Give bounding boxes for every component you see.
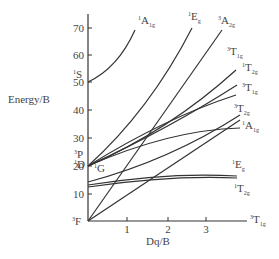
curve-1Eg-upper: [88, 28, 192, 166]
state-1T2g-lower: 1T2g: [234, 182, 250, 196]
tanabe-sugano-diagram: 10 20 30 40 50 60 70 1 2 3 Energy/B Dq/B: [0, 0, 279, 259]
y-tick-60: 60: [73, 49, 85, 61]
x-tick-1: 1: [124, 223, 130, 235]
state-1A1g-lower: 1A1g: [242, 119, 259, 133]
x-tick-3: 3: [203, 223, 209, 235]
x-tick-2: 2: [165, 223, 171, 235]
energy-curves: [88, 28, 240, 221]
curve-3T1g-upper: [88, 70, 236, 166]
state-1T2g-upper: 1T2g: [242, 61, 258, 75]
curve-1T2g-upper: [88, 85, 237, 166]
state-3A2g: 3A2g: [218, 14, 235, 28]
state-3T1g-upper: 3T1g: [227, 45, 243, 59]
state-1Eg-lower: 1Eg: [232, 158, 245, 172]
y-tick-30: 30: [73, 132, 85, 144]
y-axis-label: Energy/B: [8, 93, 50, 105]
y-tick-40: 40: [73, 104, 85, 116]
x-axis-label: Dq/B: [146, 235, 170, 247]
y-tick-10: 10: [73, 188, 85, 200]
curve-1A1g-lower: [88, 128, 240, 166]
curve-3A2g: [88, 30, 222, 221]
state-1A1g-top: 1A1g: [138, 14, 155, 28]
term-1G: 1G: [94, 162, 105, 174]
curve-3T2g: [88, 120, 240, 221]
state-3T1g-ground: 3T1g: [250, 213, 266, 227]
state-3T2g: 3T2g: [234, 102, 250, 116]
state-3T1g-mid: 3T1g: [242, 81, 258, 95]
curve-1A1g-upper: [88, 30, 135, 82]
term-3F: 3F: [72, 215, 81, 227]
y-tick-70: 70: [73, 22, 85, 34]
state-1Eg-top: 1Eg: [188, 10, 201, 24]
